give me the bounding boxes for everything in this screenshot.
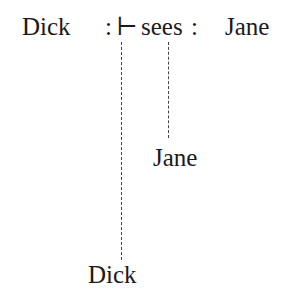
colon-right: : <box>191 14 198 39</box>
projected-object-word: Jane <box>153 145 197 170</box>
verb-word: sees <box>141 14 183 39</box>
dashed-line-turnstile <box>121 42 122 260</box>
colon-left: : <box>105 14 112 39</box>
turnstile-symbol: ⊢ <box>116 14 138 39</box>
dashed-line-verb <box>168 42 169 138</box>
projected-subject-word: Dick <box>88 262 137 287</box>
subject-word: Dick <box>22 14 71 39</box>
object-word: Jane <box>225 14 269 39</box>
